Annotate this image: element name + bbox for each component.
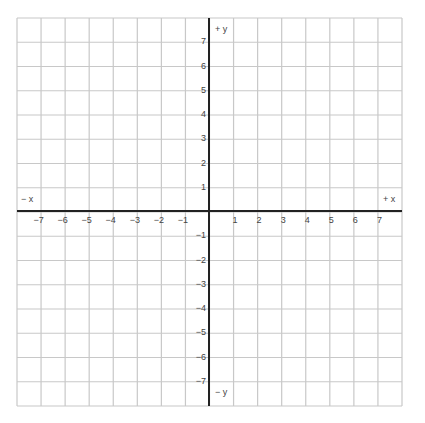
y-tick-label: 6 <box>201 61 206 70</box>
y-tick-label: 1 <box>201 182 206 191</box>
x-tick-label: 5 <box>329 216 334 225</box>
x-tick-label: 4 <box>305 216 310 225</box>
x-positive-label: + x <box>383 195 395 204</box>
y-tick-label: 2 <box>201 158 206 167</box>
x-tick-label: −5 <box>82 216 92 225</box>
y-tick-label: −3 <box>196 279 206 288</box>
y-tick-label: 7 <box>201 37 206 46</box>
x-tick-label: 7 <box>377 216 382 225</box>
y-tick-label: 3 <box>201 134 206 143</box>
x-tick-label: 6 <box>353 216 358 225</box>
x-tick-label: 1 <box>233 216 238 225</box>
y-tick-label: 5 <box>201 85 206 94</box>
y-negative-label: − y <box>215 388 227 397</box>
y-tick-label: −6 <box>196 352 206 361</box>
y-tick-label: −5 <box>196 328 206 337</box>
y-tick-label: −7 <box>196 376 206 385</box>
x-tick-label: −7 <box>33 216 43 225</box>
x-tick-label: 2 <box>257 216 262 225</box>
x-tick-label: 3 <box>281 216 286 225</box>
x-negative-label: − x <box>21 195 33 204</box>
x-tick-label: −2 <box>154 216 164 225</box>
x-tick-label: −1 <box>178 216 188 225</box>
y-tick-label: −2 <box>196 255 206 264</box>
coordinate-grid <box>0 0 425 423</box>
x-tick-label: −3 <box>130 216 140 225</box>
x-tick-label: −4 <box>106 216 116 225</box>
y-positive-label: + y <box>215 25 227 34</box>
y-tick-label: 4 <box>201 110 206 119</box>
y-tick-label: −4 <box>196 304 206 313</box>
x-tick-label: −6 <box>57 216 67 225</box>
y-tick-label: −1 <box>196 231 206 240</box>
